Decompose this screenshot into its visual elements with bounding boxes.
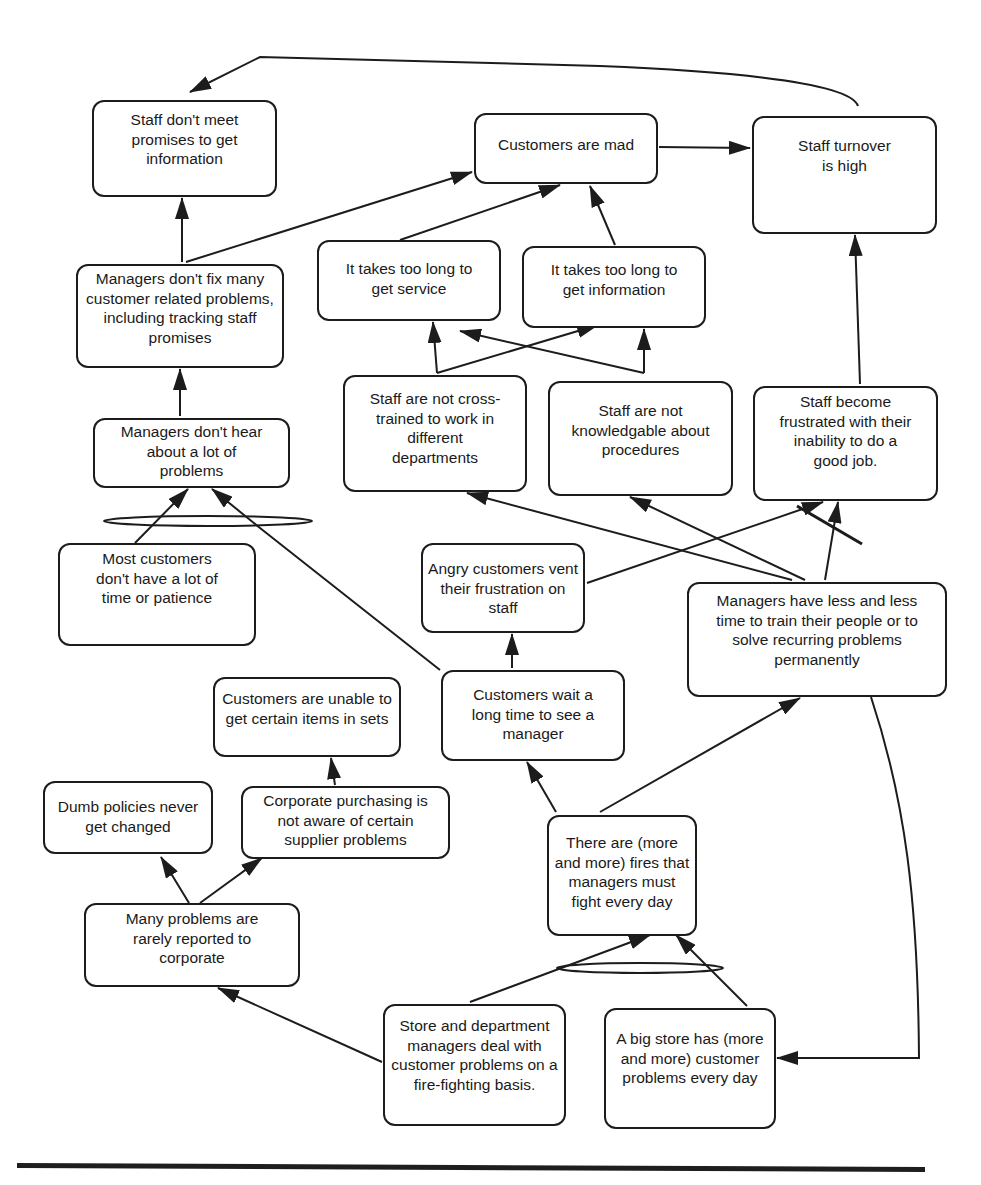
edge-purchasing-to-unable <box>331 758 335 785</box>
edge-fires-to-wait <box>527 762 556 812</box>
edge-turnover-to-promises <box>190 57 858 106</box>
node-customers-wait: Customers wait a long time to see a mana… <box>441 670 625 761</box>
node-too-long-service: It takes too long to get service <box>317 240 501 321</box>
edge-crosstrained-to-service <box>433 322 437 373</box>
node-staff-turnover-high: Staff turnover is high <box>752 116 937 234</box>
node-managers-dont-fix: Managers don't fix many customer related… <box>76 264 284 368</box>
edge-mad-to-turnover <box>659 147 750 148</box>
node-customers-are-mad: Customers are mad <box>474 113 658 184</box>
node-too-long-information: It takes too long to get information <box>522 246 706 328</box>
edge-reported-to-purchasing <box>200 858 262 903</box>
edge-reported-to-dumb <box>161 857 189 903</box>
edge-info-to-mad <box>590 186 615 245</box>
edge-lesstime-to-frustrated <box>825 502 838 580</box>
node-staff-not-knowledgable: Staff are not knowledgable about procedu… <box>548 381 733 496</box>
and-connector-ellipse <box>104 516 312 526</box>
node-fire-fighting-basis: Store and department managers deal with … <box>383 1004 566 1126</box>
edge-lesstime-to-bigstore <box>777 697 919 1058</box>
edge-firefighting-to-reported <box>218 988 382 1062</box>
node-most-customers-no-time: Most customers don't have a lot of time … <box>58 543 256 646</box>
node-managers-less-time: Managers have less and less time to trai… <box>687 582 947 697</box>
and-connector-slash <box>797 506 862 544</box>
edge-service-to-mad <box>400 185 560 240</box>
node-big-store-problems: A big store has (more and more) customer… <box>604 1008 776 1129</box>
node-managers-dont-hear: Managers don't hear about a lot of probl… <box>93 418 290 488</box>
edge-frustrated-to-turnover <box>855 235 860 384</box>
node-corporate-purchasing: Corporate purchasing is not aware of cer… <box>241 786 450 859</box>
node-customers-unable-items: Customers are unable to get certain item… <box>213 677 401 757</box>
and-connector-ellipse <box>557 963 723 973</box>
node-problems-rarely-reported: Many problems are rarely reported to cor… <box>84 903 300 987</box>
node-dumb-policies: Dumb policies never get changed <box>43 781 213 854</box>
node-staff-dont-meet-promises: Staff don't meet promises to get informa… <box>92 100 277 197</box>
node-angry-customers-vent: Angry customers vent their frustration o… <box>421 543 585 633</box>
node-staff-frustrated: Staff become frustrated with their inabi… <box>753 386 938 501</box>
edge-knowledge-to-service <box>460 331 644 373</box>
node-more-fires: There are (more and more) fires that man… <box>547 815 697 936</box>
edge-fires-to-lesstime <box>600 698 800 812</box>
node-staff-not-cross-trained: Staff are not cross-trained to work in d… <box>343 375 527 492</box>
